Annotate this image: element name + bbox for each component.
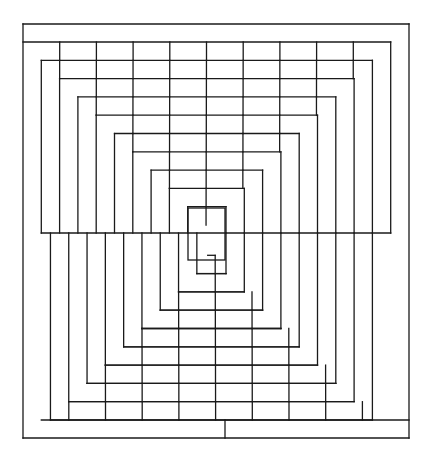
brick-diagram-canvas <box>0 0 432 462</box>
brick-diagram <box>0 0 432 462</box>
